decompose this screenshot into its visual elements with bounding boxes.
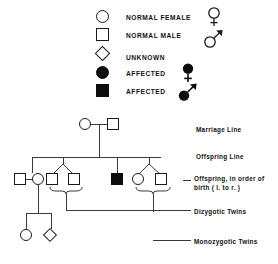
dizygotic-leader-line — [66, 210, 191, 211]
pedigree-chart-figure: NORMAL FEMALE NORMAL MALE UNKNOWN AFFECT… — [0, 0, 278, 264]
annotation-callouts: Marriage Line Offspring Line Offspring, … — [0, 0, 278, 264]
monozygotic-leader-line — [153, 240, 191, 241]
annotation-marriage-line: Marriage Line — [196, 126, 241, 135]
birth-order-leader-line — [183, 180, 191, 181]
annotation-monozygotic-twins: Monozygotic Twins — [194, 238, 258, 247]
annotation-birth-order: Offspring, in order of birth ( l. to r. … — [194, 175, 276, 192]
annotation-dizygotic-twins: Dizygotic Twins — [194, 208, 246, 217]
annotation-offspring-line: Offspring Line — [196, 153, 244, 162]
